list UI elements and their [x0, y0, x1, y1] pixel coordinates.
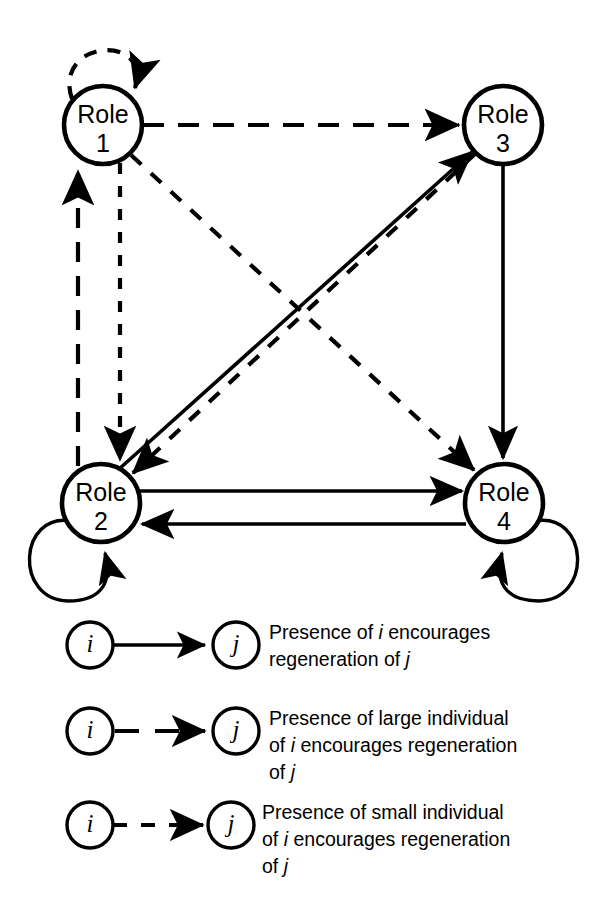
node-role2-name: Role — [75, 478, 126, 506]
edge-role2-to-role3 — [118, 152, 472, 470]
legend: i j Presence of i encourages regeneratio… — [67, 621, 517, 877]
legend-solid-desc-line-1: Presence of i encourages — [269, 621, 490, 643]
node-role2-number: 2 — [94, 507, 108, 535]
node-role3-number: 3 — [496, 129, 510, 157]
legend-small-dashed-desc-line-3: of j — [262, 855, 289, 877]
role-interaction-figure: Role 1 Role 3 Role 2 Role 4 — [0, 0, 597, 915]
node-role1-name: Role — [77, 100, 128, 128]
node-role1[interactable]: Role 1 — [64, 86, 142, 164]
legend-solid-source-label: i — [87, 630, 94, 657]
node-role2[interactable]: Role 2 — [62, 464, 140, 542]
node-role3[interactable]: Role 3 — [464, 86, 542, 164]
node-role1-number: 1 — [96, 129, 110, 157]
legend-large-dashed-desc-line-3: of j — [269, 761, 296, 783]
legend-large-dashed-desc-line-1: Presence of large individual — [269, 707, 509, 729]
edge-role1-to-role4 — [131, 155, 474, 470]
node-role3-name: Role — [477, 100, 528, 128]
edge-role3-to-role2 — [133, 153, 476, 473]
legend-small-dashed-desc-line-1: Presence of small individual — [262, 801, 504, 823]
legend-small-dashed-source-label: i — [87, 810, 94, 837]
legend-solid-desc-line-2: regeneration of j — [269, 648, 411, 670]
legend-item-small-dashed: i j Presence of small individual of i en… — [67, 801, 510, 877]
node-role4[interactable]: Role 4 — [465, 464, 543, 542]
legend-small-dashed-desc-line-2: of i encourages regeneration — [262, 828, 510, 850]
legend-large-dashed-source-label: i — [87, 716, 94, 743]
node-role4-name: Role — [478, 478, 529, 506]
legend-item-large-dashed: i j Presence of large individual of i en… — [67, 707, 517, 783]
node-role4-number: 4 — [497, 507, 511, 535]
legend-large-dashed-desc-line-2: of i encourages regeneration — [269, 734, 517, 756]
diagram-canvas: Role 1 Role 3 Role 2 Role 4 — [0, 0, 597, 915]
legend-item-solid: i j Presence of i encourages regeneratio… — [67, 621, 490, 670]
